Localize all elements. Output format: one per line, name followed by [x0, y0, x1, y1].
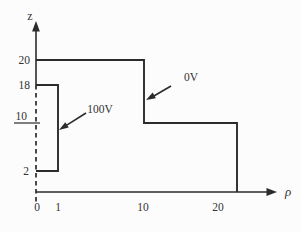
rho-tick-20: 20: [212, 201, 224, 213]
outer-conductor-voltage-label: 0V: [184, 71, 199, 83]
z-tick-20: 20: [19, 54, 31, 66]
z-tick-10: 10: [16, 110, 28, 122]
rho-tick-1: 1: [55, 201, 61, 213]
inner-voltage-arrowhead-icon: [59, 122, 69, 130]
rho-tick-0: 0: [34, 201, 40, 213]
z-axis-label: z: [27, 9, 32, 23]
rho-axis-label: ρ: [284, 184, 291, 199]
outer-voltage-arrow-line: [153, 86, 171, 97]
rho-tick-10: 10: [137, 201, 149, 213]
z-tick-18: 18: [19, 79, 31, 91]
inner-conductor-voltage-label: 100V: [87, 103, 113, 115]
outer-voltage-arrowhead-icon: [146, 93, 156, 100]
z-tick-2: 2: [23, 165, 29, 177]
boundary-value-diagram: z ρ 20 18 10 2 0 1 10 20 0V 100V: [0, 0, 302, 232]
z-axis-arrowhead-icon: [32, 21, 40, 32]
rho-axis-arrowhead-icon: [267, 188, 278, 196]
inner-conductor-outline: [36, 85, 58, 171]
inner-voltage-arrow-line: [66, 113, 86, 126]
